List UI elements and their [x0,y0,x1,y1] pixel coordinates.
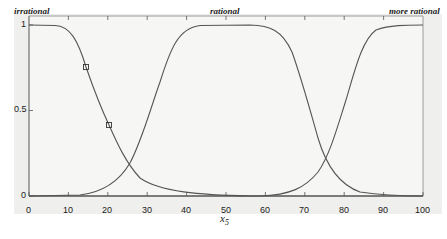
x-tick: 100 [415,205,430,215]
x-tick: 30 [142,205,152,215]
y-tick-0-5: 0.5 [14,104,27,114]
x-tick: 60 [260,205,270,215]
x-tick: 40 [181,205,191,215]
plot-area [29,16,423,196]
y-tick-0: 0 [21,190,26,200]
label-irrational: irrational [14,6,50,16]
x-axis-label: x5 [220,212,229,227]
x-tick: 80 [339,205,349,215]
label-rational: rational [210,6,240,16]
x-tick: 90 [378,205,388,215]
chart-plot [0,0,447,239]
y-tick-1: 1 [21,19,26,29]
x-tick: 0 [26,205,31,215]
x-tick: 70 [299,205,309,215]
x-tick: 20 [102,205,112,215]
label-more-rational: more rational [389,6,440,16]
x-tick: 10 [63,205,73,215]
x-axis-label-subscript: 5 [225,218,229,227]
